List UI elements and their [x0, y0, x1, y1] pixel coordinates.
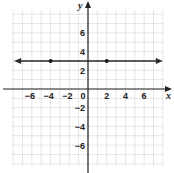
y-tick-label: 2: [80, 66, 85, 76]
x-tick-label: −4: [43, 91, 53, 101]
coordinate-plane: x y −6−4−20246642−2−4−6: [0, 0, 174, 173]
axes: x y: [3, 0, 172, 173]
x-tick-label: −2: [62, 91, 72, 101]
y-tick-label: 6: [80, 28, 85, 38]
x-tick-label: −6: [25, 91, 35, 101]
y-tick-label: −4: [75, 122, 85, 132]
data-point: [105, 59, 109, 63]
y-axis-label: y: [77, 0, 83, 11]
arrow-right-icon: [156, 58, 163, 64]
y-tick-label: 4: [80, 47, 85, 57]
y-tick-label: −2: [75, 103, 85, 113]
y-tick-label: −6: [75, 141, 85, 151]
x-tick-label: 4: [123, 91, 128, 101]
arrow-left-icon: [14, 58, 21, 64]
y-axis-arrow-icon: [85, 1, 91, 8]
x-tick-label: 0: [80, 91, 85, 101]
data-point: [49, 59, 53, 63]
x-axis-label: x: [165, 90, 171, 101]
x-tick-label: 2: [104, 91, 109, 101]
x-tick-label: 6: [142, 91, 147, 101]
